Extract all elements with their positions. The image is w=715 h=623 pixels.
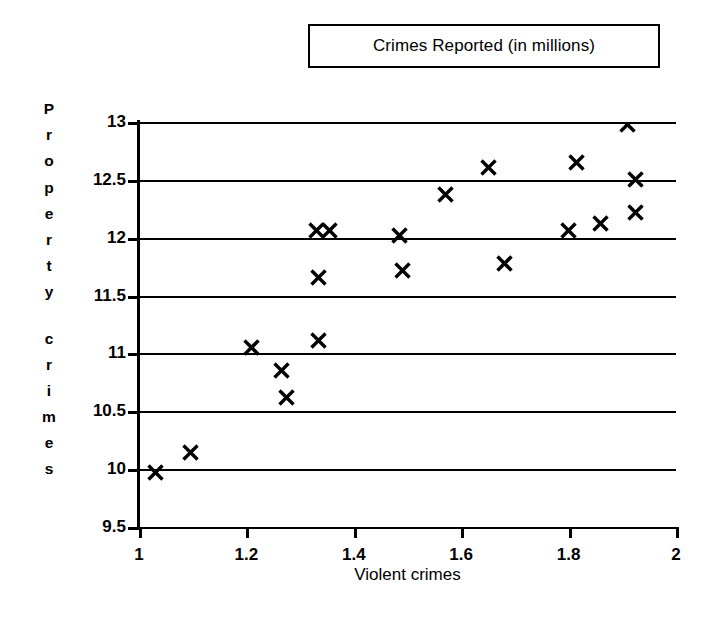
y-axis-title-letter: e <box>38 430 60 456</box>
y-axis-title-letter: r <box>38 122 60 148</box>
data-point-marker <box>436 185 455 204</box>
y-axis-tick-label: 13 <box>107 112 126 132</box>
data-point-marker <box>307 221 326 240</box>
y-axis-tick-labels: 9.51010.51111.51212.513 <box>60 122 126 527</box>
data-point-marker <box>626 170 645 189</box>
data-point-layer <box>139 122 676 527</box>
x-axis-tick-label: 1.4 <box>342 545 366 565</box>
data-point-marker <box>390 226 409 245</box>
y-axis-title: Propertycrimes <box>38 96 60 483</box>
y-axis-tick <box>128 469 139 472</box>
y-axis-title-letter: o <box>38 148 60 174</box>
chart-title-box: Crimes Reported (in millions) <box>308 24 660 68</box>
gridline-y <box>139 527 676 529</box>
data-point-marker <box>320 221 339 240</box>
y-axis-tick-label: 10.5 <box>93 401 126 421</box>
chart-title: Crimes Reported (in millions) <box>373 36 595 56</box>
y-axis-tick <box>128 296 139 299</box>
data-point-marker <box>277 388 296 407</box>
data-point-marker <box>567 153 586 172</box>
data-point-marker <box>272 361 291 380</box>
y-axis-title-letter: c <box>38 326 60 352</box>
y-axis-tick-label: 9.5 <box>102 517 126 537</box>
y-axis-tick-label: 10 <box>107 459 126 479</box>
y-axis-tick-label: 11 <box>108 343 126 363</box>
data-point-marker <box>393 261 412 280</box>
y-axis-tick-label: 12 <box>107 228 126 248</box>
y-axis-tick <box>128 353 139 356</box>
y-axis-tick <box>128 238 139 241</box>
y-axis-tick-label: 11.5 <box>94 286 126 306</box>
x-axis-tick <box>569 527 572 538</box>
y-axis-tick <box>128 411 139 414</box>
x-axis-tick <box>676 527 679 538</box>
y-axis-tick <box>128 180 139 183</box>
y-axis-title-letter: p <box>38 175 60 201</box>
y-axis-title-letter: i <box>38 378 60 404</box>
y-axis-title-letter: m <box>38 404 60 430</box>
data-point-marker <box>309 331 328 350</box>
y-axis-title-letter: r <box>38 227 60 253</box>
x-axis-tick <box>354 527 357 538</box>
y-axis-tick <box>128 122 139 125</box>
data-point-marker <box>626 203 645 222</box>
x-axis-tick <box>246 527 249 538</box>
data-point-marker <box>309 268 328 287</box>
y-axis-tick-label: 12.5 <box>93 170 126 190</box>
scatter-chart-figure: Crimes Reported (in millions) Propertycr… <box>0 0 715 623</box>
x-axis-tick <box>461 527 464 538</box>
x-axis-tick-labels: 11.21.41.61.82 <box>139 527 676 561</box>
data-point-marker <box>181 443 200 462</box>
x-axis-tick-label: 1.2 <box>235 545 259 565</box>
data-point-marker <box>559 221 578 240</box>
x-axis-tick-label: 1 <box>134 545 143 565</box>
x-axis-title: Violent crimes <box>139 565 676 585</box>
y-axis-title-letter: r <box>38 352 60 378</box>
data-point-marker <box>242 338 261 357</box>
x-axis-tick-label: 2 <box>671 545 680 565</box>
y-axis-title-letter: y <box>38 279 60 305</box>
y-axis-title-letter: t <box>38 253 60 279</box>
x-axis-tick-label: 1.8 <box>557 545 581 565</box>
y-axis-title-gap <box>38 306 60 326</box>
y-axis-tick <box>128 527 139 530</box>
x-axis-tick-label: 1.6 <box>449 545 473 565</box>
data-point-marker <box>495 254 514 273</box>
y-axis-title-letter: s <box>38 456 60 482</box>
data-point-marker <box>146 463 165 482</box>
data-point-marker <box>479 158 498 177</box>
y-axis-title-letter: P <box>38 96 60 122</box>
data-point-marker <box>591 214 610 233</box>
data-point-marker <box>618 122 637 134</box>
x-axis-tick <box>139 527 142 538</box>
y-axis-title-letter: e <box>38 201 60 227</box>
